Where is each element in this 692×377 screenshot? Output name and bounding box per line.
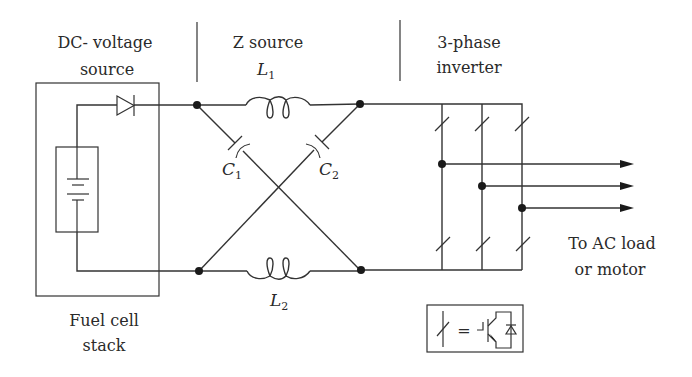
node-top-right	[356, 100, 364, 108]
wire-battery-to-diode	[77, 105, 117, 147]
inductor-l2-icon	[247, 258, 310, 279]
output-label-line2: or motor	[575, 260, 646, 279]
arrow-icon-phase-a	[620, 160, 634, 168]
wire-negative-rail	[77, 232, 199, 271]
l1-label: L1	[256, 59, 275, 82]
diode-icon	[117, 95, 134, 116]
z-source-heading: Z source	[233, 33, 303, 52]
legend-equals: =	[457, 321, 470, 340]
dc-source-heading-line1: DC- voltage	[57, 33, 152, 52]
inverter-heading-line1: 3-phase	[437, 33, 500, 52]
node-phase-c	[518, 204, 526, 212]
fuel-cell-label-line1: Fuel cell	[69, 311, 139, 330]
battery-icon	[67, 179, 89, 200]
wire-top-right	[310, 104, 360, 105]
l2-label: L2	[269, 290, 288, 313]
node-phase-b	[478, 182, 486, 190]
wire-c2-top	[322, 104, 360, 142]
node-top-left	[193, 101, 201, 109]
switch-legend: =	[427, 305, 523, 352]
wire-c1-top	[197, 105, 235, 143]
node-bottom-right	[357, 266, 365, 274]
inverter-heading-line2: inverter	[436, 58, 501, 77]
node-phase-a	[438, 160, 446, 168]
igbt-diode-icon	[477, 312, 516, 348]
wire-c2-bottom	[199, 150, 314, 271]
dc-source-heading-line2: source	[80, 60, 134, 79]
node-bottom-left	[195, 267, 203, 275]
arrow-icon-phase-c	[620, 204, 634, 212]
wire-top-rail-inverter	[360, 104, 522, 270]
fuel-cell-label-line2: stack	[83, 336, 126, 355]
c1-label: C1	[222, 159, 242, 182]
inductor-l1-icon	[246, 97, 310, 118]
switch-icons-lower	[436, 237, 530, 251]
arrow-icon-phase-b	[620, 182, 634, 190]
output-label-line1: To AC load	[568, 234, 656, 253]
c2-label: C2	[319, 159, 339, 182]
z-source-inverter-diagram: DC- voltage source Z source 3-phase inve…	[0, 0, 692, 377]
wire-c1-bottom	[243, 151, 361, 271]
